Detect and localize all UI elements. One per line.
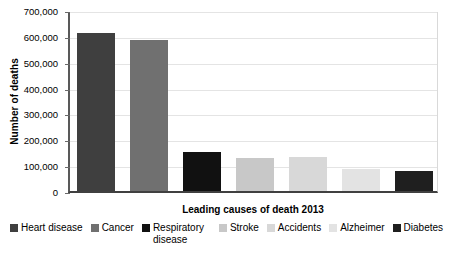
legend-item[interactable]: Diabetes bbox=[393, 222, 443, 234]
legend-item[interactable]: Alzheimer bbox=[329, 222, 384, 234]
x-axis-title: Leading causes of death 2013 bbox=[68, 204, 438, 215]
legend-item[interactable]: Respiratory disease bbox=[142, 222, 211, 246]
bar bbox=[77, 33, 115, 191]
y-axis-tick-label: 200,000 bbox=[24, 136, 58, 146]
legend-swatch-icon bbox=[142, 224, 150, 232]
legend-label: Heart disease bbox=[21, 222, 83, 234]
y-axis-tick-mark bbox=[65, 193, 70, 194]
bar-chart: Number of deaths 700,000600,000500,00040… bbox=[0, 0, 453, 257]
bar bbox=[395, 171, 433, 191]
bar bbox=[236, 158, 274, 191]
y-axis-tick-label: 500,000 bbox=[24, 59, 58, 69]
plot-area bbox=[68, 12, 438, 193]
y-axis-tick-label: 600,000 bbox=[24, 33, 58, 43]
legend-swatch-icon bbox=[329, 224, 337, 232]
bar bbox=[342, 169, 380, 191]
y-axis-tick-label: 400,000 bbox=[24, 85, 58, 95]
legend-swatch-icon bbox=[393, 224, 401, 232]
y-axis-tick-label: 300,000 bbox=[24, 110, 58, 120]
legend-label: Cancer bbox=[102, 222, 134, 234]
legend-label: Stroke bbox=[230, 222, 259, 234]
y-axis-tick-labels: 700,000600,000500,000400,000300,000200,0… bbox=[0, 0, 62, 200]
legend-item[interactable]: Accidents bbox=[267, 222, 321, 234]
bar bbox=[289, 157, 327, 191]
legend-item[interactable]: Cancer bbox=[91, 222, 134, 234]
y-axis-tick-label: 100,000 bbox=[24, 162, 58, 172]
legend-label: Respiratory disease bbox=[153, 222, 211, 246]
legend-swatch-icon bbox=[10, 224, 18, 232]
legend-swatch-icon bbox=[219, 224, 227, 232]
y-axis-tick-label: 700,000 bbox=[24, 7, 58, 17]
bar-series bbox=[70, 12, 437, 191]
legend-label: Diabetes bbox=[404, 222, 443, 234]
legend-label: Alzheimer bbox=[340, 222, 384, 234]
bar bbox=[130, 40, 168, 191]
bar bbox=[183, 152, 221, 191]
legend-item[interactable]: Stroke bbox=[219, 222, 259, 234]
chart-legend: Heart diseaseCancerRespiratory diseaseSt… bbox=[0, 222, 453, 246]
legend-item[interactable]: Heart disease bbox=[10, 222, 83, 234]
legend-swatch-icon bbox=[91, 224, 99, 232]
legend-swatch-icon bbox=[267, 224, 275, 232]
legend-label: Accidents bbox=[278, 222, 321, 234]
y-axis-tick-label: 0 bbox=[53, 188, 58, 198]
